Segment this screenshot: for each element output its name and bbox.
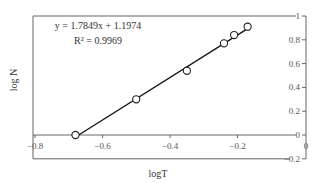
data-point-marker bbox=[244, 23, 251, 30]
r-squared-annotation: R² = 0.9969 bbox=[74, 35, 122, 46]
data-point-marker bbox=[133, 96, 140, 103]
data-point-marker bbox=[72, 131, 79, 138]
y-tick-label: 0.6 bbox=[289, 59, 301, 69]
y-axis-title: log N bbox=[8, 69, 19, 92]
data-point-marker bbox=[183, 67, 190, 74]
axis-ticks: −0.200.20.40.60.81−0.8−0.6−0.4−0.20 bbox=[27, 11, 309, 164]
y-tick-label: 0.2 bbox=[289, 106, 300, 116]
y-tick-label: 0 bbox=[296, 130, 301, 140]
x-axis-title: logT bbox=[149, 168, 168, 179]
data-point-marker bbox=[220, 40, 227, 47]
x-tick-label: −0.4 bbox=[162, 141, 179, 151]
equation-annotation: y = 1.7849x + 1.1974 bbox=[55, 20, 141, 31]
data-point-marker bbox=[231, 31, 238, 38]
y-tick-label: 1 bbox=[296, 11, 301, 21]
y-tick-label: −0.2 bbox=[284, 154, 300, 164]
x-tick-label: −0.2 bbox=[229, 141, 245, 151]
chart: −0.200.20.40.60.81−0.8−0.6−0.4−0.20 y = … bbox=[0, 0, 324, 183]
y-tick-label: 0.8 bbox=[289, 35, 301, 45]
y-tick-label: 0.4 bbox=[289, 82, 301, 92]
x-tick-label: 0 bbox=[304, 141, 309, 151]
x-tick-label: −0.6 bbox=[94, 141, 111, 151]
x-tick-label: −0.8 bbox=[27, 141, 44, 151]
